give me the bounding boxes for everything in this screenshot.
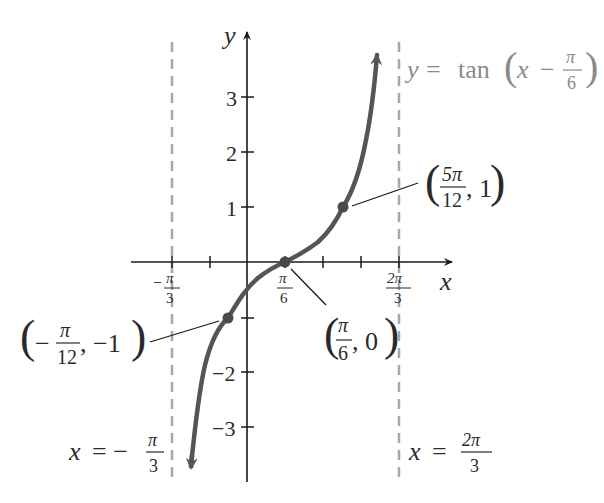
svg-text:2π: 2π [387, 270, 403, 286]
svg-text:(: ( [425, 156, 440, 207]
svg-text:12: 12 [57, 346, 77, 368]
svg-text:3: 3 [394, 290, 402, 306]
svg-text:): ) [490, 156, 505, 207]
tangent-curve-down-arrow [191, 455, 192, 468]
x-tick-neg-pi-3: − π 3 [153, 270, 180, 306]
svg-text:(: ( [20, 311, 35, 362]
svg-text:π: π [148, 430, 158, 450]
point-c-label: ( 5π 12 , 1 ) [425, 156, 505, 211]
leader-point-c [352, 183, 418, 206]
leader-point-a [150, 321, 219, 342]
svg-text:): ) [131, 311, 146, 362]
svg-text:x: x [516, 55, 529, 84]
svg-text:x: x [408, 437, 421, 466]
svg-text:, −1: , −1 [80, 329, 121, 358]
svg-text:=: = [426, 55, 441, 84]
y-tick-2: 2 [226, 141, 237, 166]
svg-text:5π: 5π [442, 163, 463, 185]
x-tick-pi-6: π 6 [277, 270, 293, 306]
y-tick-3: 3 [226, 86, 237, 111]
svg-text:6: 6 [280, 290, 288, 306]
svg-text:6: 6 [338, 342, 348, 364]
y-tick-1: 1 [226, 196, 237, 221]
right-asymptote-label: x = 2π 3 [408, 430, 492, 476]
y-axis-label: y [221, 21, 236, 50]
svg-text:π: π [566, 47, 576, 67]
svg-text:π: π [279, 270, 287, 286]
function-label: y = tan ( x − π 6 ) [404, 44, 598, 93]
point-a-label: ( − π 12 , −1 ) [20, 311, 146, 368]
svg-text:3: 3 [470, 456, 479, 476]
left-asymptote-label: x = − π 3 [68, 430, 164, 476]
svg-text:π: π [166, 270, 174, 286]
y-tick-neg2: −2 [212, 361, 235, 386]
point-5pi-12 [338, 202, 349, 213]
x-tick-2pi-3: 2π 3 [386, 270, 411, 306]
svg-text:, 0: , 0 [352, 327, 378, 356]
svg-text:−: − [540, 55, 555, 84]
point-neg-pi-12 [223, 313, 234, 324]
svg-text:2π: 2π [462, 430, 481, 450]
svg-text:π: π [60, 319, 71, 341]
leader-point-b [291, 269, 326, 305]
tangent-graph: y x 3 2 1 −2 −3 − π 3 π 6 2π 3 y = tan (… [0, 0, 604, 503]
svg-text:12: 12 [442, 189, 462, 211]
svg-text:−: − [35, 329, 50, 358]
svg-text:π: π [338, 314, 349, 336]
svg-text:): ) [384, 309, 399, 360]
svg-text:−: − [153, 274, 162, 291]
svg-text:y: y [404, 55, 419, 84]
svg-text:=: = [432, 437, 447, 466]
svg-text:(: ( [504, 44, 517, 89]
svg-text:= −: = − [92, 437, 128, 466]
svg-text:3: 3 [166, 290, 174, 306]
point-pi-6 [280, 257, 291, 268]
svg-text:x: x [68, 437, 81, 466]
point-b-label: ( π 6 , 0 ) [324, 309, 399, 364]
x-axis-label: x [439, 267, 452, 296]
svg-text:tan: tan [458, 55, 490, 84]
svg-text:3: 3 [149, 456, 158, 476]
svg-text:6: 6 [567, 73, 576, 93]
svg-text:): ) [585, 44, 598, 89]
svg-text:, 1: , 1 [466, 174, 492, 203]
y-tick-neg3: −3 [212, 416, 235, 441]
